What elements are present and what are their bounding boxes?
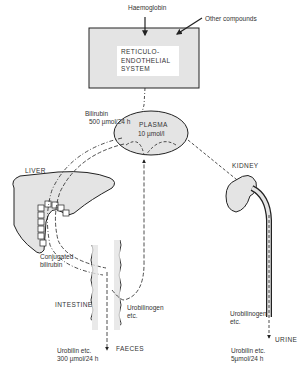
conjugated-bilirubin-label: Conjugated bilirubin bbox=[40, 253, 73, 269]
urobilinogen-kidney-line-2: etc. bbox=[230, 318, 267, 326]
bilirubin-metabolism-diagram: Haemoglobin Other compounds RETICULO- EN… bbox=[0, 0, 300, 372]
liver-cells bbox=[38, 201, 69, 246]
bilirubin-label: Bilirubin bbox=[85, 110, 108, 118]
res-label: RETICULO- ENDOTHELIAL SYSTEM bbox=[117, 46, 179, 76]
conjugated-line-2: bilirubin bbox=[40, 261, 73, 269]
kidney-shape bbox=[226, 175, 256, 212]
bilirubin-rate: 500 µmol/24 h bbox=[89, 118, 130, 126]
faeces-note: Urobilin etc. 300 µmol/24 h bbox=[57, 347, 98, 363]
kidney-label: KIDNEY bbox=[232, 162, 259, 170]
liver-label: LIVER bbox=[25, 167, 46, 175]
faeces-label: FAECES bbox=[116, 345, 144, 353]
faeces-note-line-2: 300 µmol/24 h bbox=[57, 355, 98, 363]
res-line-2: ENDOTHELIAL bbox=[121, 57, 175, 66]
plasma-label: PLASMA bbox=[139, 121, 168, 129]
urobilinogen-gut-line-2: etc. bbox=[127, 312, 164, 320]
urine-label: URINE bbox=[275, 336, 297, 344]
urobilinogen-kidney-label: Urobilinogen etc. bbox=[230, 310, 267, 326]
conjugated-line-1: Conjugated bbox=[40, 253, 73, 261]
plasma-concentration: 10 µmol/l bbox=[138, 130, 165, 138]
haemoglobin-label: Haemoglobin bbox=[128, 4, 166, 12]
faeces-note-line-1: Urobilin etc. bbox=[57, 347, 98, 355]
intestine-label: INTESTINE bbox=[55, 301, 93, 309]
urine-note-line-2: 5µmol/24 h bbox=[231, 355, 265, 363]
other-compounds-label: Other compounds bbox=[205, 15, 257, 23]
res-line-1: RETICULO- bbox=[121, 48, 175, 57]
res-line-3: SYSTEM bbox=[121, 65, 175, 74]
urine-note: Urobilin etc. 5µmol/24 h bbox=[231, 347, 265, 363]
urobilinogen-gut-label: Urobilinogen etc. bbox=[127, 304, 164, 320]
urobilinogen-gut-line-1: Urobilinogen bbox=[127, 304, 164, 312]
urobilinogen-kidney-line-1: Urobilinogen bbox=[230, 310, 267, 318]
urine-note-line-1: Urobilin etc. bbox=[231, 347, 265, 355]
